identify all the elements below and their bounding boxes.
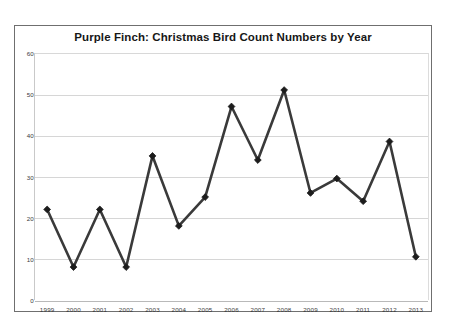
chart-title: Purple Finch: Christmas Bird Count Numbe… (15, 31, 431, 43)
y-tick-label: 20 (10, 214, 34, 221)
x-tick-label: 2002 (119, 306, 134, 313)
x-tick-label: 2011 (356, 306, 370, 313)
y-tick-label: 10 (10, 255, 34, 262)
x-tick-label: 2010 (330, 306, 345, 313)
y-tick-label: 0 (10, 297, 34, 304)
gridline-0 (35, 301, 428, 302)
x-axis: 1999200020012002200320042005200620072008… (34, 304, 429, 320)
x-tick-label: 2012 (382, 306, 397, 313)
y-tick-label: 40 (10, 132, 34, 139)
y-axis: 0102030405060 (6, 53, 34, 300)
x-tick-label: 2003 (145, 306, 160, 313)
data-series-purple-finch (34, 53, 429, 300)
y-tick-label: 30 (10, 173, 34, 180)
series-line (47, 90, 416, 267)
x-tick-label: 2009 (303, 306, 318, 313)
y-tick-label: 50 (10, 91, 34, 98)
x-tick-label: 2008 (277, 306, 292, 313)
x-tick-label: 2004 (172, 306, 187, 313)
data-point-marker (149, 153, 156, 160)
x-tick-label: 2007 (251, 306, 266, 313)
x-tick-label: 2000 (66, 306, 81, 313)
data-point-marker (281, 87, 288, 94)
data-point-marker (412, 253, 419, 260)
x-tick-label: 2005 (198, 306, 213, 313)
x-tick-label: 2006 (224, 306, 239, 313)
x-tick-label: 2001 (93, 306, 108, 313)
y-tick-label: 60 (10, 50, 34, 57)
x-tick-label: 2013 (409, 306, 424, 313)
chart-frame: Purple Finch: Christmas Bird Count Numbe… (14, 25, 432, 312)
x-tick-label: 1999 (40, 306, 55, 313)
